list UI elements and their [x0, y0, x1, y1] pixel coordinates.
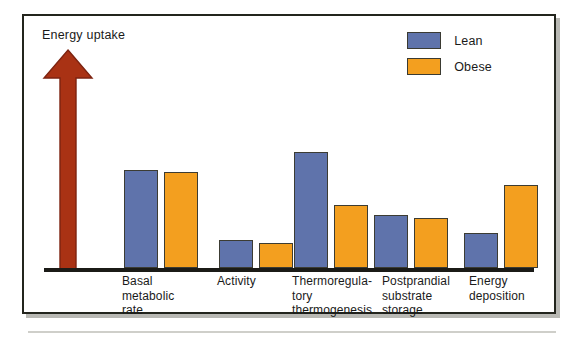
- x-label-activity: Activity: [217, 274, 297, 289]
- bar-group-activity: [219, 16, 293, 268]
- bar-lean-thermoregulatory-thermogenesis: [294, 152, 328, 268]
- bar-obese-basal-metabolic-rate: [164, 172, 198, 268]
- x-axis-line: [44, 268, 534, 272]
- bar-group-postprandial-substrate-storage: [374, 16, 448, 268]
- bar-obese-postprandial-substrate-storage: [414, 218, 448, 268]
- x-label-basal-metabolic-rate: Basal metabolic rate: [122, 274, 210, 318]
- x-label-postprandial-substrate-storage: Postprandial substrate storage: [382, 274, 466, 318]
- bar-obese-thermoregulatory-thermogenesis: [334, 205, 368, 268]
- bar-obese-activity: [259, 243, 293, 268]
- x-label-energy-deposition: Energy deposition: [469, 274, 559, 303]
- x-axis-category-labels: Basal metabolic rate Activity Thermoregu…: [44, 274, 544, 314]
- bar-group-thermoregulatory-thermogenesis: [294, 16, 368, 268]
- bar-lean-activity: [219, 240, 253, 268]
- bar-lean-basal-metabolic-rate: [124, 170, 158, 268]
- bar-group-basal-metabolic-rate: [124, 16, 198, 268]
- bar-chart-plot-area: Energy uptake Lean Obese: [24, 16, 554, 312]
- x-label-thermoregulatory-thermogenesis: Thermoregula- tory thermogenesis: [292, 274, 384, 318]
- figure-frame: Energy uptake Lean Obese: [22, 14, 556, 314]
- footer-rule: [28, 331, 556, 333]
- bar-series-container: [44, 16, 534, 270]
- bar-obese-energy-deposition: [504, 185, 538, 268]
- bar-lean-postprandial-substrate-storage: [374, 215, 408, 268]
- bar-lean-energy-deposition: [464, 233, 498, 268]
- bar-group-energy-deposition: [464, 16, 538, 268]
